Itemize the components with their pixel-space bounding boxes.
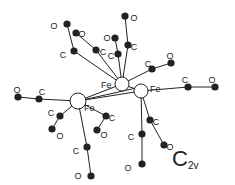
symmetry-subscript: 2v [188,160,199,171]
carbon-atom [83,143,90,150]
oxygen-label: O [208,75,215,85]
carbon-label: C [131,42,138,52]
structure-canvas: COCOCOCOCOCOCOCOCOCOCOCOFeFeFeC2v [0,0,235,185]
carbon-atom [92,46,99,53]
c-o-bond [125,16,128,45]
c-o-bond [87,147,91,176]
oxygen-label: O [100,130,107,140]
fe-c-bond [74,51,122,84]
carbon-label: C [100,47,107,57]
iron-atom [115,77,129,91]
carbon-label: C [48,108,55,118]
iron-label: Fe [101,80,112,90]
carbon-label: C [109,113,116,123]
symmetry-label: C [172,146,188,171]
carbon-label: C [145,59,152,69]
carbon-label: C [182,75,189,85]
carbon-label: C [39,87,46,97]
carbon-label: C [153,117,160,127]
oxygen-label: O [103,33,110,43]
oxygen-atom [48,125,55,132]
carbon-label: C [128,132,135,142]
iron-atom [134,84,148,98]
oxygen-atom [121,12,128,19]
molecule-diagram: COCOCOCOCOCOCOCOCOCOCOCOFeFeFeC2v [0,0,235,185]
oxygen-label: O [130,13,137,23]
carbon-atom [56,112,63,119]
oxygen-atom [87,172,94,179]
carbon-label: C [60,50,67,60]
carbon-label: C [108,51,115,61]
oxygen-label: O [13,85,20,95]
oxygen-label: O [74,171,81,181]
oxygen-atom [138,160,145,167]
fe-fe-bond [78,91,141,101]
oxygen-atom [63,20,70,27]
oxygen-label: O [166,51,173,61]
oxygen-label: O [56,131,63,141]
carbon-label: C [73,146,80,156]
iron-label: Fe [150,84,161,94]
carbon-atom [70,47,77,54]
c-o-bond [67,24,74,51]
iron-label: Fe [84,103,95,113]
oxygen-label: O [78,29,85,39]
oxygen-label: O [50,21,57,31]
carbon-atom [138,130,145,137]
carbon-atom [114,50,121,57]
oxygen-label: O [124,163,131,173]
oxygen-atom [111,34,118,41]
